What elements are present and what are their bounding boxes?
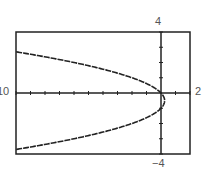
parabola-curve <box>16 52 164 150</box>
plot-area <box>0 0 206 170</box>
